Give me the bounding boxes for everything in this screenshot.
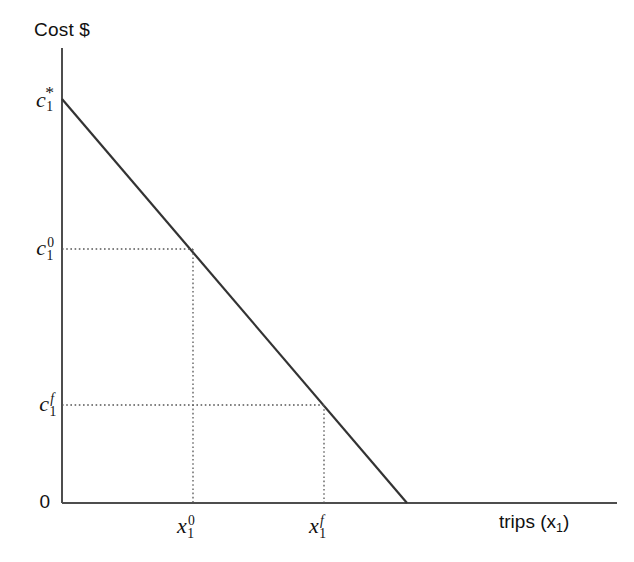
c1-star-superscript: * — [45, 82, 54, 102]
y-tick-label-c1-star: c1* — [10, 84, 54, 114]
x-axis-title-tail: ) — [563, 511, 569, 532]
cost-vs-trips-figure: Cost $ c1* c10 c1f 0 x10 x1f trips (x1) — [0, 0, 634, 562]
y-axis-title: Cost $ — [34, 20, 90, 39]
x1-f-subscript: 1 — [319, 526, 326, 541]
origin-label: 0 — [10, 492, 50, 511]
x1-zero-base: x — [177, 513, 187, 538]
plot-canvas — [0, 0, 634, 562]
x1-f-superscript: f — [320, 513, 324, 528]
x-axis-title-head: trips (x — [499, 511, 556, 532]
c1-zero-superscript: 0 — [47, 235, 54, 250]
x1-f-base: x — [309, 513, 319, 538]
x1-zero-subscript: 1 — [187, 526, 194, 541]
x-axis-title-subscript: 1 — [556, 521, 563, 535]
x-tick-label-x1-zero: x10 — [177, 514, 195, 540]
c1-f-base: c — [39, 391, 49, 416]
demand-curve-line — [62, 99, 407, 503]
x-tick-label-x1-f: x1f — [309, 514, 324, 540]
c1-f-superscript: f — [50, 391, 54, 406]
c1-f-subscript: 1 — [50, 404, 57, 419]
x1-zero-superscript: 0 — [188, 513, 195, 528]
c1-zero-subscript: 1 — [47, 248, 54, 263]
x-axis-title: trips (x1) — [499, 512, 569, 534]
c1-zero-base: c — [36, 235, 46, 260]
y-tick-label-c1-zero: c10 — [10, 236, 54, 262]
y-tick-label-c1-f: c1f — [10, 392, 54, 418]
